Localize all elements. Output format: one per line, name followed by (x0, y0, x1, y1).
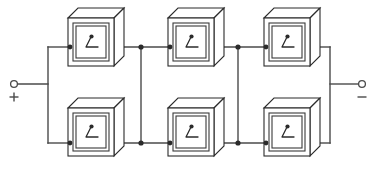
negative-terminal[interactable] (358, 81, 367, 97)
cell-bottom-left[interactable] (68, 98, 124, 156)
cell-terminal-dot-top-middle (168, 45, 173, 50)
cell-terminal-dot-top-right (264, 45, 269, 50)
cell-bottom-middle[interactable] (168, 98, 224, 156)
circuit-schematic-svg (0, 0, 381, 170)
junction-dot-bottom-left (138, 140, 143, 145)
positive-terminal[interactable] (10, 81, 19, 102)
cell-terminal-dot-bottom-right (264, 141, 269, 146)
cell-terminal-dot-bottom-middle (168, 141, 173, 146)
negative-terminal-ring[interactable] (359, 81, 366, 88)
plus-sign-icon (10, 93, 19, 102)
cell-terminal-dot-top-left (68, 45, 73, 50)
circuit-diagram-canvas (0, 0, 381, 170)
junction-dot-top-left (138, 44, 143, 49)
junction-dot-top-right (235, 44, 240, 49)
cell-terminal-dot-bottom-left (68, 141, 73, 146)
cell-top-left[interactable] (68, 8, 124, 66)
cell-top-right[interactable] (264, 8, 320, 66)
cell-top-middle[interactable] (168, 8, 224, 66)
positive-terminal-ring[interactable] (11, 81, 18, 88)
cell-bottom-right[interactable] (264, 98, 320, 156)
junction-dot-bottom-right (235, 140, 240, 145)
